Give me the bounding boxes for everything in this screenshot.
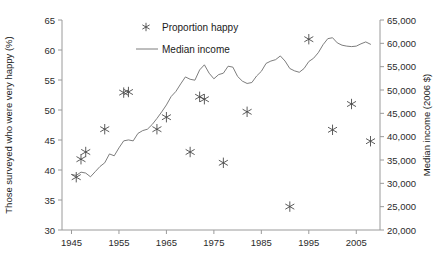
- chart-container: 3035404550556065 20,00025,00030,00035,00…: [0, 0, 440, 274]
- right-tick-label: 45,000: [387, 108, 416, 119]
- data-point-marker: [219, 158, 228, 168]
- x-tick-label: 1965: [156, 237, 177, 248]
- left-axis-title: Those surveyed who were very happy (%): [3, 36, 14, 213]
- left-tick-label: 40: [44, 165, 55, 176]
- left-tick-label: 45: [44, 135, 55, 146]
- left-tick-label: 50: [44, 105, 55, 116]
- data-point-marker: [152, 124, 161, 134]
- data-point-marker: [304, 34, 313, 44]
- x-tick-label: 2005: [346, 237, 367, 248]
- proportion-happy-series: [72, 34, 375, 212]
- data-point-marker: [186, 147, 195, 157]
- right-tick-label: 60,000: [387, 38, 416, 49]
- right-tick-label: 35,000: [387, 155, 416, 166]
- left-tick-label: 30: [44, 225, 55, 236]
- left-tick-label: 60: [44, 45, 55, 56]
- right-tick-label: 55,000: [387, 61, 416, 72]
- right-tick-label: 50,000: [387, 85, 416, 96]
- legend-label-proportion-happy: Proportion happy: [162, 22, 238, 33]
- data-point-marker: [366, 136, 375, 146]
- right-axis-ticks: 20,00025,00030,00035,00040,00045,00050,0…: [380, 15, 416, 236]
- legend-label-median-income: Median income: [162, 44, 230, 55]
- x-tick-label: 1985: [251, 237, 272, 248]
- right-tick-label: 30,000: [387, 178, 416, 189]
- left-tick-label: 55: [44, 75, 55, 86]
- data-point-marker: [100, 124, 109, 134]
- chart-legend: Proportion happyMedian income: [136, 22, 238, 55]
- median-income-line: [71, 38, 370, 177]
- right-tick-label: 25,000: [387, 201, 416, 212]
- scatter-line-chart: 3035404550556065 20,00025,00030,00035,00…: [0, 0, 440, 274]
- right-tick-label: 20,000: [387, 225, 416, 236]
- median-income-series: [71, 38, 370, 177]
- x-axis-ticks: 1945195519651975198519952005: [61, 230, 367, 248]
- x-tick-label: 1995: [298, 237, 319, 248]
- x-tick-label: 1945: [61, 237, 82, 248]
- right-tick-label: 40,000: [387, 131, 416, 142]
- data-point-marker: [347, 99, 356, 109]
- data-point-marker: [81, 147, 90, 157]
- data-point-marker: [76, 154, 85, 164]
- data-point-marker: [328, 125, 337, 135]
- left-tick-label: 65: [44, 15, 55, 26]
- data-point-marker: [285, 201, 294, 211]
- data-point-marker: [243, 107, 252, 117]
- right-axis-title: Median income (2006 $): [421, 74, 432, 176]
- data-point-marker: [162, 112, 171, 122]
- legend-marker-proportion-happy: [142, 23, 149, 31]
- x-tick-label: 1975: [203, 237, 224, 248]
- right-tick-label: 65,000: [387, 15, 416, 26]
- left-tick-label: 35: [44, 195, 55, 206]
- x-tick-label: 1955: [108, 237, 129, 248]
- left-axis-ticks: 3035404550556065: [44, 15, 62, 236]
